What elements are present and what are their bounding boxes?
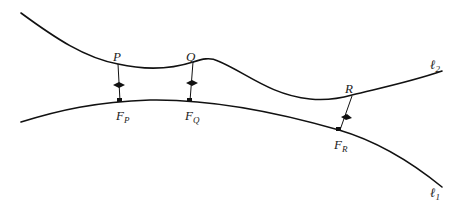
segment-r-fr <box>336 96 352 131</box>
foot-marker-fp <box>117 98 122 102</box>
diagram-canvas: P Q R FP FQ FR ℓ2 ℓ1 <box>0 0 464 209</box>
equal-mark-r <box>341 114 352 120</box>
foot-marker-fq <box>187 98 192 102</box>
segment-p-fp <box>113 64 125 102</box>
label-l1: ℓ1 <box>430 185 440 202</box>
segment-q-fq <box>186 62 198 102</box>
label-fr: FR <box>333 137 348 154</box>
foot-marker-fr <box>336 127 341 131</box>
label-fq: FQ <box>184 108 200 125</box>
equal-mark-p <box>113 82 125 88</box>
curve-l2 <box>21 13 442 100</box>
label-p: P <box>112 49 121 64</box>
curve-l1 <box>21 100 442 187</box>
label-r: R <box>344 81 353 96</box>
label-l2: ℓ2 <box>430 57 440 74</box>
label-fp: FP <box>115 108 130 125</box>
label-q: Q <box>186 49 196 64</box>
equal-mark-q <box>186 80 198 86</box>
